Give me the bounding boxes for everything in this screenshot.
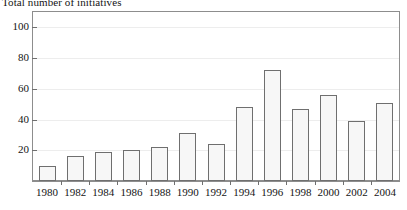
bar [123, 150, 140, 181]
x-axis-line [32, 181, 400, 182]
x-axis-tick [286, 181, 287, 185]
x-axis-label: 1988 [146, 186, 174, 198]
bar [348, 121, 365, 181]
y-axis-label-text: 20 [3, 144, 29, 155]
y-axis-label: 20 [0, 144, 29, 155]
x-axis-tick [315, 181, 316, 185]
x-axis-tick [117, 181, 118, 185]
bar [179, 133, 196, 181]
x-axis-tick [258, 181, 259, 185]
x-axis-tick [146, 181, 147, 185]
chart-title: Total number of initiatives [2, 0, 122, 8]
x-axis-label: 1980 [33, 186, 61, 198]
x-axis-label: 2004 [371, 186, 399, 198]
bar-chart: Total number of initiatives 204060801001… [0, 0, 407, 210]
y-axis-label: 60 [0, 83, 29, 94]
y-axis-tick [32, 150, 37, 151]
x-axis-tick [230, 181, 231, 185]
x-axis-tick [89, 181, 90, 185]
x-axis-label: 2002 [343, 186, 371, 198]
y-axis-label-text: 40 [3, 114, 29, 125]
y-axis-tick [32, 89, 37, 90]
x-axis-tick [343, 181, 344, 185]
y-axis-label-text: 60 [3, 83, 29, 94]
x-axis-tick [174, 181, 175, 185]
x-axis-label: 1992 [202, 186, 230, 198]
x-axis-label: 1996 [258, 186, 286, 198]
x-axis-label: 1994 [230, 186, 258, 198]
gridline [33, 27, 399, 28]
plot-area [33, 12, 399, 181]
y-axis-label: 100 [0, 21, 29, 32]
gridline [33, 58, 399, 59]
y-axis-tick [32, 120, 37, 121]
bar [320, 95, 337, 181]
bar [39, 166, 56, 181]
bar [264, 70, 281, 181]
bar [208, 144, 225, 181]
gridline [33, 120, 399, 121]
x-axis-label: 1998 [286, 186, 314, 198]
x-axis-label: 1982 [61, 186, 89, 198]
y-axis-label-text: 80 [3, 52, 29, 63]
y-axis-tick [32, 27, 37, 28]
x-axis-label: 2000 [315, 186, 343, 198]
y-axis-label: 80 [0, 52, 29, 63]
x-axis-tick [61, 181, 62, 185]
x-axis-label: 1984 [89, 186, 117, 198]
x-axis-tick [371, 181, 372, 185]
gridline [33, 89, 399, 90]
bar [292, 109, 309, 181]
y-axis-tick [32, 58, 37, 59]
y-axis-label: 40 [0, 114, 29, 125]
x-axis-tick [202, 181, 203, 185]
bar [151, 147, 168, 181]
bar [236, 107, 253, 181]
y-axis-label-text: 100 [3, 21, 29, 32]
bar [67, 156, 84, 181]
x-axis-label: 1990 [174, 186, 202, 198]
bar [376, 103, 393, 181]
bar [95, 152, 112, 181]
x-axis-label: 1986 [117, 186, 145, 198]
